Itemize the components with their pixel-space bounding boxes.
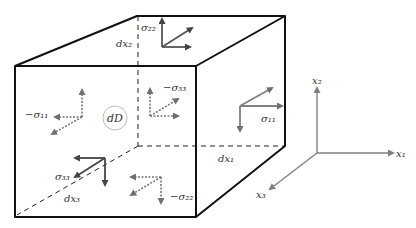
coordinate-axes: [270, 88, 393, 189]
sigma11-label: σ₁₁: [261, 113, 276, 124]
dx3-label: dx₃: [64, 193, 80, 204]
sigma11-arrows: [240, 88, 282, 131]
neg-sigma33-arrows: [150, 89, 178, 116]
neg-sigma33-label: −σ₃₃: [163, 82, 186, 93]
dx1-label: dx₁: [218, 153, 234, 164]
sigma33-arrows: [75, 158, 105, 185]
x1-label: x₁: [396, 148, 406, 159]
element-dD: dD: [103, 106, 127, 130]
sigma33-label: σ₃₃: [55, 171, 70, 182]
neg-sigma11-label: −σ₁₁: [25, 109, 48, 120]
neg-sigma22-arrows: [131, 177, 161, 203]
neg-sigma11-arrows: [52, 90, 82, 134]
sigma22-label: σ₂₂: [141, 22, 156, 33]
sigma22-arrows: [162, 19, 192, 47]
svg-text:dD: dD: [107, 112, 123, 125]
x3-label: x₃: [256, 189, 266, 200]
stress-cube-diagram: dD σ₂₂ dx₂ −σ₁₁ −σ₃₃ σ₁₁ σ₃₃ dx₃: [0, 0, 416, 228]
neg-sigma22-label: −σ₂₂: [170, 191, 193, 202]
x2-label: x₂: [312, 75, 322, 86]
x3-axis: [270, 153, 317, 189]
dx2-label: dx₂: [116, 38, 132, 49]
